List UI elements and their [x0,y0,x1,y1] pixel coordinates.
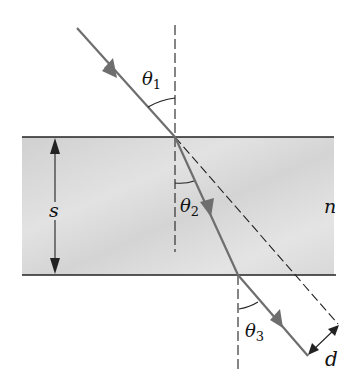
index-label: n [324,195,336,217]
theta3-label: θ3 [245,320,264,344]
refraction-diagram: θ1 θ2 θ3 s n d [0,0,348,385]
theta3-arc [239,302,258,309]
theta1-label: θ1 [142,68,161,92]
exit-ray [238,275,308,356]
slab [22,137,334,275]
thickness-label: s [49,199,59,221]
displacement-label: d [325,347,338,371]
theta1-arc [148,98,175,107]
exit-arrowhead-icon [270,309,283,328]
d-arrowhead-lower-icon [308,343,319,355]
